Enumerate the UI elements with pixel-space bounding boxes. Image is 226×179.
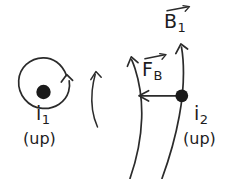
connector-arrow-group (91, 72, 101, 127)
wire-two-dot (175, 89, 188, 102)
label-current-two: i2 (194, 104, 208, 126)
physics-figure: i1 (up) i2 (up) B1 FB (0, 0, 226, 179)
connector-arrowhead (91, 72, 101, 80)
force-vector-overbar-arrow-icon (142, 53, 170, 61)
field-circle (19, 58, 70, 109)
wire-one-group (19, 58, 73, 109)
current-two-symbol: i (194, 102, 199, 124)
field-arc-near (162, 47, 183, 178)
current-one-subscript: 1 (42, 112, 50, 127)
field-vector-overbar-arrow-icon (164, 5, 194, 13)
label-force-vector: FB (142, 53, 162, 82)
label-current-two-direction: (up) (183, 131, 216, 147)
field-vector-symbol: B (164, 10, 177, 32)
force-vector-subscript: B (153, 68, 162, 83)
label-field-vector: B1 (164, 5, 186, 34)
label-current-one: i1 (36, 104, 50, 126)
field-vector-subscript: 1 (178, 20, 186, 35)
current-two-subscript: 2 (200, 112, 208, 127)
current-one-symbol: i (36, 102, 41, 124)
wire-one-dot (36, 85, 50, 99)
label-current-one-direction: (up) (23, 131, 56, 147)
figure-canvas (0, 0, 226, 179)
force-vector-symbol: F (142, 58, 153, 80)
field-arc-far (130, 60, 142, 179)
field-circle-arrowhead (61, 75, 72, 82)
connector-arc (92, 75, 98, 128)
